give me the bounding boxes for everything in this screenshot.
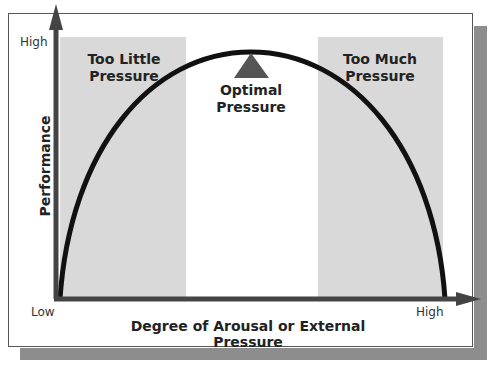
too-much-line1: Too Much <box>325 51 435 68</box>
x-low-label: Low <box>31 305 55 319</box>
y-axis-arrow-icon <box>49 4 63 30</box>
too-little-line1: Too Little <box>70 51 178 68</box>
x-axis-title: Degree of Arousal or External Pressure <box>118 318 378 350</box>
too-little-label: Too Little Pressure <box>70 51 178 85</box>
too-much-line2: Pressure <box>325 68 435 85</box>
too-little-line2: Pressure <box>70 68 178 85</box>
optimal-marker-icon <box>234 53 269 78</box>
optimal-line2: Pressure <box>200 99 302 116</box>
y-high-label: High <box>20 35 48 49</box>
too-much-label: Too Much Pressure <box>325 51 435 85</box>
x-axis-arrow-icon <box>456 292 481 306</box>
x-high-label: High <box>416 305 444 319</box>
optimal-line1: Optimal <box>200 82 302 99</box>
optimal-label: Optimal Pressure <box>200 82 302 116</box>
y-axis-title: Performance <box>37 111 53 221</box>
